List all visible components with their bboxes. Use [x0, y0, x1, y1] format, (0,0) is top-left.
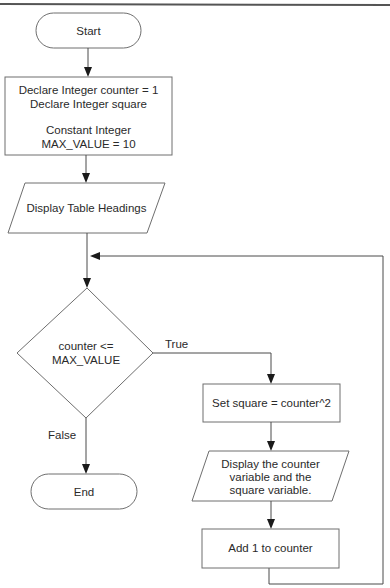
arrowhead-icon [267, 374, 275, 384]
display-headings-label: Display Table Headings [27, 202, 147, 214]
end-terminal: End [31, 474, 137, 509]
arrowhead-icon [267, 441, 275, 451]
display-values-line-3: square variable. [230, 484, 312, 496]
start-terminal: Start [36, 13, 141, 48]
declare-line-1: Declare Integer counter = 1 [19, 84, 159, 96]
arrowhead-icon [267, 519, 275, 529]
arrowhead-icon [82, 464, 90, 474]
start-label: Start [76, 25, 101, 37]
display-values-line-2: variable and the [230, 471, 312, 483]
declare-line-5: MAX_VALUE = 10 [41, 138, 135, 150]
add-one-label: Add 1 to counter [228, 542, 313, 554]
display-headings-io: Display Table Headings [8, 183, 165, 233]
false-branch-label: False [48, 429, 76, 441]
connector-true-branch [153, 353, 271, 376]
set-square-label: Set square = counter^2 [212, 397, 331, 409]
arrowhead-icon [82, 173, 90, 183]
set-square-process-box: Set square = counter^2 [203, 384, 340, 422]
add-one-process-box: Add 1 to counter [202, 529, 339, 568]
declare-process-box: Declare Integer counter = 1 Declare Inte… [5, 77, 172, 155]
decision-diamond: counter <= MAX_VALUE [17, 288, 153, 418]
display-values-line-1: Display the counter [221, 458, 320, 470]
display-values-io: Display the counter variable and the squ… [192, 451, 349, 501]
true-branch-label: True [165, 338, 188, 350]
page-header-rule [0, 4, 390, 5]
arrowhead-icon [84, 67, 92, 77]
declare-line-4: Constant Integer [46, 124, 131, 136]
decision-line-2: MAX_VALUE [52, 354, 121, 366]
end-label: End [74, 486, 94, 498]
flowchart-canvas: Start Declare Integer counter = 1 Declar… [0, 0, 390, 588]
declare-line-2: Declare Integer square [30, 98, 147, 110]
arrowhead-icon [83, 278, 91, 288]
arrowhead-icon [90, 252, 100, 260]
decision-line-1: counter <= [59, 340, 114, 352]
